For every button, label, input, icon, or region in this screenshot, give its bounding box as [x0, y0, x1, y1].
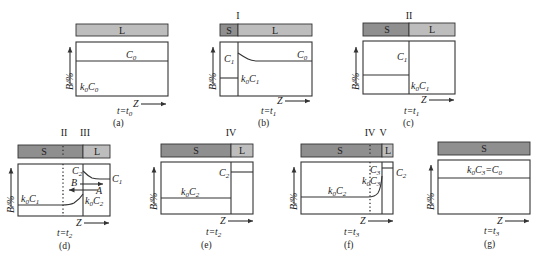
phase-label-l: L: [94, 146, 100, 157]
interface-label-iv: IV: [365, 127, 376, 138]
panel-b: I S L C1 C0 k0C1 B/% Z t=t1 (b): [207, 10, 312, 129]
time-label: t=t0: [117, 106, 133, 118]
panel-d: II III S L C2 C1 B A k0C1 k0C2 B/% Z t=t…: [5, 127, 122, 252]
interface-label: II: [406, 10, 413, 21]
caption: (e): [201, 240, 212, 251]
phase-label-l: L: [272, 25, 278, 36]
x-axis-label: Z: [360, 215, 366, 226]
panel-a: L C0 k0C0 B/% Z t=t0 (a): [64, 24, 168, 129]
time-label: t=t3: [344, 227, 360, 239]
panel-g: S k0C3=C0 B/% Z t=t3 (g): [425, 142, 530, 250]
interface-label: I: [236, 10, 239, 21]
caption: (f): [344, 240, 354, 251]
time-label: t=t3: [484, 226, 500, 238]
phase-label-l: L: [385, 145, 391, 156]
caption: (d): [59, 241, 70, 252]
time-label: t=t2: [206, 227, 222, 239]
zone-refining-diagram: L C0 k0C0 B/% Z t=t0 (a) I S L C1 C0 k0C…: [0, 0, 539, 258]
phase-label-l: L: [239, 145, 245, 156]
caption: (a): [113, 118, 124, 129]
panel-c: II S L C1 k0C1 B/% Z t=t1 (c): [350, 10, 455, 129]
concentration-box: [161, 162, 253, 214]
interface-label-iii: III: [80, 127, 90, 138]
interface-label-v: V: [379, 127, 387, 138]
phase-label-s: S: [41, 146, 47, 157]
panel-f: IV V S L C3 C2 k0C3 k0C2 B/% Z t=t3 (f): [288, 127, 407, 251]
time-label: t=t2: [57, 228, 73, 240]
interface-label-ii: II: [61, 127, 68, 138]
x-axis-label: Z: [76, 217, 82, 228]
phase-label-s: S: [337, 145, 343, 156]
x-axis-label: Z: [133, 98, 139, 109]
y-axis-label: B/%: [288, 193, 299, 210]
phase-bar-solid: [18, 145, 83, 158]
time-label: t=t1: [404, 106, 419, 118]
x-axis-label: Z: [497, 215, 503, 226]
y-axis-label: B/%: [64, 73, 75, 90]
time-label: t=t1: [261, 106, 276, 118]
interface-label: IV: [226, 127, 237, 138]
label-b: B: [71, 177, 77, 188]
x-axis-label: Z: [220, 215, 226, 226]
y-axis-label: B/%: [350, 73, 361, 90]
caption: (c): [403, 118, 414, 129]
caption: (b): [258, 118, 269, 129]
phase-label-s: S: [193, 145, 199, 156]
phase-label-s: S: [481, 143, 487, 154]
caption: (g): [484, 239, 495, 250]
label-c1: C1: [112, 173, 122, 186]
y-axis-label: B/%: [5, 196, 16, 213]
phase-label-l: L: [429, 24, 435, 35]
x-axis-label: Z: [421, 94, 427, 105]
panel-e: IV S L C2 k0C2 B/% Z t=t2 (e): [148, 127, 253, 251]
y-axis-label: B/%: [425, 193, 436, 210]
label-c2: C2: [396, 167, 407, 180]
y-axis-label: B/%: [148, 193, 159, 210]
phase-label-s: S: [226, 25, 232, 36]
phase-label-l: L: [119, 25, 125, 36]
y-axis-label: B/%: [207, 73, 218, 90]
x-axis-label: Z: [277, 95, 283, 106]
phase-label-s: S: [384, 24, 390, 35]
